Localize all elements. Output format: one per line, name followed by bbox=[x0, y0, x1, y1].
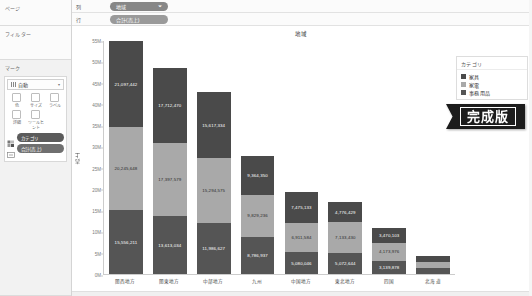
bar-segment[interactable]: 13,613,034 bbox=[153, 216, 187, 274]
legend-title: カテゴリ bbox=[457, 57, 527, 70]
mark-type-label: 自動 bbox=[18, 81, 56, 88]
bar-segment[interactable]: 6,911,584 bbox=[285, 223, 319, 252]
tooltip-icon bbox=[31, 110, 40, 119]
marks-label-shelf[interactable]: 合計(売上) bbox=[7, 144, 64, 153]
bar-column[interactable]: 4,776,4297,133,4305,072,644 bbox=[328, 41, 362, 274]
y-axis-tick: 30M bbox=[92, 145, 101, 150]
bar-value-label: 11,986,627 bbox=[202, 246, 225, 251]
bar-value-label: 7,475,133 bbox=[291, 205, 311, 210]
marks-detail-label: 詳細 bbox=[7, 120, 26, 125]
marks-color-button[interactable]: 色 bbox=[7, 93, 26, 108]
bar-column[interactable]: 3,470,1034,173,9763,139,878 bbox=[372, 41, 406, 274]
sort-descending-icon[interactable]: ⏷ bbox=[158, 3, 162, 10]
bar-segment[interactable]: 15,556,211 bbox=[109, 210, 143, 274]
rows-pill-sum-sales[interactable]: 合計(売上) bbox=[110, 15, 168, 24]
marks-color-label: 色 bbox=[7, 103, 26, 108]
mark-type-selector[interactable]: 自動 ▾ bbox=[7, 79, 64, 90]
pages-panel-title: ページ bbox=[0, 0, 71, 14]
marks-card: 自動 ▾ 色 サイズ ラベル bbox=[4, 76, 67, 162]
bar-segment[interactable]: 3,470,103 bbox=[372, 228, 406, 243]
bar-column[interactable]: 15,617,33415,294,57511,986,627 bbox=[197, 41, 231, 274]
completed-version-badge: 完成版 bbox=[446, 104, 525, 129]
columns-shelf[interactable]: 列 地域 ⏷ bbox=[72, 0, 532, 13]
bar-mark-icon bbox=[11, 82, 16, 87]
rows-pill-text: 合計(売上) bbox=[116, 16, 139, 23]
filters-panel[interactable]: フィルター bbox=[0, 26, 71, 60]
bar-segment[interactable]: 7,475,133 bbox=[285, 192, 319, 224]
bar-value-label: 15,556,211 bbox=[115, 240, 138, 245]
bar-column[interactable] bbox=[416, 41, 450, 274]
chevron-down-icon[interactable]: ▾ bbox=[58, 82, 60, 87]
x-axis-tick[interactable]: 関西地方 bbox=[108, 275, 142, 291]
worksheet-main: 列 地域 ⏷ 行 合計(売上) 地域 売上 0M5M10M15M20M25M30… bbox=[72, 0, 532, 296]
y-axis-tick: 0M bbox=[95, 273, 101, 278]
marks-label-button[interactable]: ラベル bbox=[45, 93, 64, 108]
bar-value-label: 3,470,103 bbox=[379, 233, 399, 238]
marks-color-shelf[interactable]: カテゴリ bbox=[7, 133, 64, 142]
y-axis: 0M5M10M15M20M25M30M35M40M45M50M55M bbox=[81, 41, 103, 275]
bar-segment[interactable]: 5,072,644 bbox=[328, 253, 362, 274]
bar-segment[interactable]: 3,139,878 bbox=[372, 261, 406, 274]
bar-segment[interactable]: 20,245,648 bbox=[109, 127, 143, 210]
x-axis-tick[interactable]: 四国 bbox=[372, 275, 406, 291]
size-icon bbox=[31, 93, 40, 102]
bar-value-label: 4,173,976 bbox=[379, 249, 399, 254]
bar-segment[interactable] bbox=[416, 268, 450, 274]
marks-detail-button[interactable]: 詳細 bbox=[7, 110, 26, 130]
bar-segment[interactable]: 15,617,334 bbox=[197, 92, 231, 158]
x-axis-tick[interactable]: 関東地方 bbox=[152, 275, 186, 291]
bar-segment[interactable]: 9,364,350 bbox=[241, 156, 275, 196]
x-axis-tick[interactable]: 中国地方 bbox=[284, 275, 318, 291]
bar-segment[interactable]: 17,712,470 bbox=[153, 68, 187, 143]
label-icon bbox=[50, 93, 59, 102]
badge-text: 完成版 bbox=[460, 107, 516, 126]
x-axis-tick[interactable]: 北海道 bbox=[416, 275, 450, 291]
bar-value-label: 4,776,429 bbox=[335, 210, 355, 215]
legend-item[interactable]: 家電 bbox=[461, 80, 523, 88]
marks-tooltip-button[interactable]: ツールヒント bbox=[26, 110, 45, 130]
bar-value-label: 15,294,575 bbox=[202, 188, 225, 193]
bar-segment[interactable]: 7,133,430 bbox=[328, 222, 362, 252]
marks-label-label: ラベル bbox=[45, 103, 64, 108]
bar-column[interactable]: 7,475,1336,911,5845,080,046 bbox=[285, 41, 319, 274]
marks-size-label: サイズ bbox=[26, 103, 45, 108]
filters-panel-title: フィルター bbox=[0, 26, 71, 40]
bar-value-label: 13,613,034 bbox=[158, 243, 181, 248]
legend-category: カテゴリ 家具家電事務用品 bbox=[456, 56, 528, 100]
bar-segment[interactable]: 4,776,429 bbox=[328, 202, 362, 222]
bar-segment[interactable]: 5,080,046 bbox=[285, 252, 319, 274]
legend-item[interactable]: 家具 bbox=[461, 72, 523, 80]
rows-shelf[interactable]: 行 合計(売上) bbox=[72, 13, 532, 26]
y-axis-tick: 20M bbox=[92, 187, 101, 192]
bar-column[interactable]: 9,364,3509,829,2368,786,937 bbox=[241, 41, 275, 274]
legend-label: 事務用品 bbox=[469, 89, 490, 96]
bar-segment[interactable]: 17,397,579 bbox=[153, 143, 187, 217]
pill-category[interactable]: カテゴリ bbox=[17, 133, 64, 142]
legend-label: 家具 bbox=[469, 73, 480, 80]
x-axis-tick[interactable]: 東北地方 bbox=[328, 275, 362, 291]
legend-swatch bbox=[461, 74, 466, 79]
bar-segment[interactable]: 8,786,937 bbox=[241, 237, 275, 274]
bar-value-label: 17,397,579 bbox=[158, 177, 181, 182]
x-axis-tick[interactable]: 中部地方 bbox=[196, 275, 230, 291]
bar-segment[interactable]: 21,097,442 bbox=[109, 41, 143, 127]
bar-value-label: 8,786,937 bbox=[247, 253, 267, 258]
columns-pill-region[interactable]: 地域 ⏷ bbox=[110, 2, 168, 11]
bar-column[interactable]: 21,097,44220,245,64815,556,211 bbox=[109, 41, 143, 274]
bar-segment[interactable]: 4,173,976 bbox=[372, 243, 406, 261]
legend-item[interactable]: 事務用品 bbox=[461, 88, 523, 96]
marks-size-button[interactable]: サイズ bbox=[26, 93, 45, 108]
pill-sum-sales[interactable]: 合計(売上) bbox=[17, 144, 64, 153]
color-legend-icon bbox=[7, 134, 15, 142]
label-shelf-icon bbox=[7, 145, 15, 153]
x-axis-tick[interactable]: 九州 bbox=[240, 275, 274, 291]
bar-group: 21,097,44220,245,64815,556,21117,712,470… bbox=[104, 41, 455, 274]
pages-panel[interactable]: ページ bbox=[0, 0, 71, 26]
bar-segment[interactable]: 15,294,575 bbox=[197, 158, 231, 223]
y-axis-tick: 35M bbox=[92, 124, 101, 129]
bar-segment[interactable]: 9,829,236 bbox=[241, 195, 275, 237]
bar-column[interactable]: 17,712,47017,397,57913,613,034 bbox=[153, 41, 187, 274]
bar-segment[interactable]: 11,986,627 bbox=[197, 223, 231, 274]
columns-pill-text: 地域 bbox=[116, 3, 126, 10]
y-axis-tick: 5M bbox=[95, 251, 101, 256]
